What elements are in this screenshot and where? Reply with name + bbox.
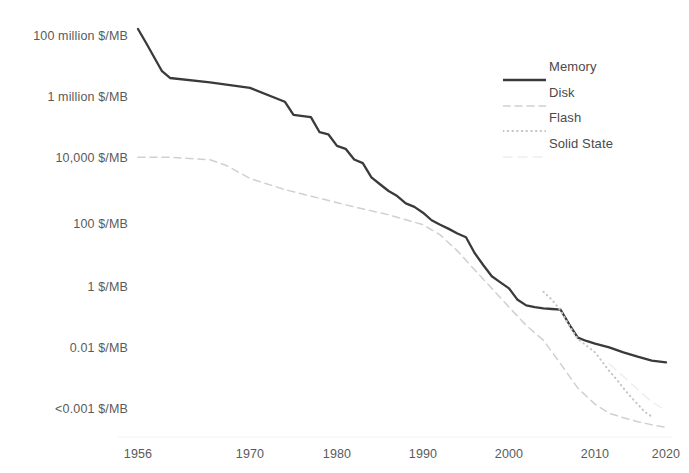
x-axis-tick-label: 1980	[323, 447, 351, 461]
x-axis-tick-label: 2000	[495, 447, 523, 461]
legend-label: Memory	[549, 59, 597, 74]
legend-item-flash[interactable]: Flash	[500, 109, 685, 135]
x-axis-tick-label: 2010	[581, 447, 609, 461]
x-axis-tick-label: 1956	[124, 447, 152, 461]
legend-label: Flash	[549, 110, 581, 125]
legend-label: Disk	[549, 85, 575, 100]
legend-swatch-icon	[503, 119, 546, 122]
legend-label: Solid State	[549, 136, 613, 151]
x-axis-tick-label: 2020	[652, 447, 680, 461]
price-per-megabyte-chart: 100 million $/MB1 million $/MB10,000 $/M…	[0, 0, 689, 473]
legend-item-memory[interactable]: Memory	[500, 58, 685, 84]
x-axis-tick-label: 1990	[409, 447, 437, 461]
legend-item-solid-state[interactable]: Solid State	[500, 135, 685, 161]
legend-item-disk[interactable]: Disk	[500, 84, 685, 110]
chart-legend: MemoryDiskFlashSolid State	[500, 58, 685, 160]
legend-swatch-icon	[503, 68, 546, 71]
legend-swatch-icon	[503, 94, 546, 97]
x-axis-tick-label: 1970	[236, 447, 264, 461]
legend-swatch-icon	[503, 145, 546, 148]
